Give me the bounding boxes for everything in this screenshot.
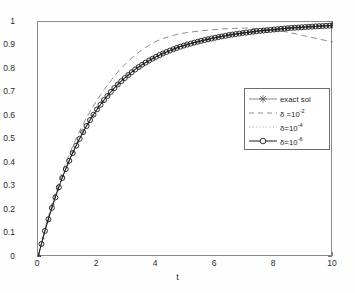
y-tick-label: 0.5 <box>3 134 15 142</box>
legend-sample-dashed <box>248 107 278 119</box>
y-tick-label: 0.2 <box>3 205 15 213</box>
x-tick-label: 0 <box>25 259 49 268</box>
x-tick-label: 4 <box>143 259 167 268</box>
legend-item[interactable]: δ=10-6 <box>245 134 329 148</box>
x-tick-label: 2 <box>84 259 108 268</box>
y-tick-label: 0.1 <box>3 228 15 236</box>
x-tick-label: 8 <box>261 259 285 268</box>
legend-item[interactable]: δ=10-4 <box>245 120 329 134</box>
legend-label: δ =10-2 <box>280 107 305 119</box>
y-tick-label: 0.7 <box>3 87 15 95</box>
y-tick-label: 1 <box>10 17 15 25</box>
x-tick-label: 6 <box>202 259 226 268</box>
y-tick-label: 0.3 <box>3 181 15 189</box>
y-tick-label: 0.8 <box>3 64 15 72</box>
legend-label: δ=10-6 <box>280 135 303 147</box>
y-tick-label: 0 <box>10 252 15 260</box>
legend-item[interactable]: δ =10-2 <box>245 106 329 120</box>
x-axis-label: t <box>0 272 355 282</box>
legend-label: δ=10-4 <box>280 121 303 133</box>
legend: exact solδ =10-2δ=10-4δ=10-6 <box>244 88 330 150</box>
y-tick-label: 0.4 <box>3 158 15 166</box>
legend-item[interactable]: exact sol <box>245 92 329 106</box>
legend-label: exact sol <box>280 95 311 104</box>
legend-sample-solid-circle <box>248 135 278 147</box>
y-tick-label: 0.6 <box>3 111 15 119</box>
x-tick-label: 10 <box>320 259 344 268</box>
legend-sample-solid-star <box>248 93 278 105</box>
legend-sample-dotted <box>248 121 278 133</box>
figure-canvas: 10.90.80.70.60.50.40.30.20.10 0246810 t … <box>0 0 355 293</box>
y-tick-label: 0.9 <box>3 40 15 48</box>
